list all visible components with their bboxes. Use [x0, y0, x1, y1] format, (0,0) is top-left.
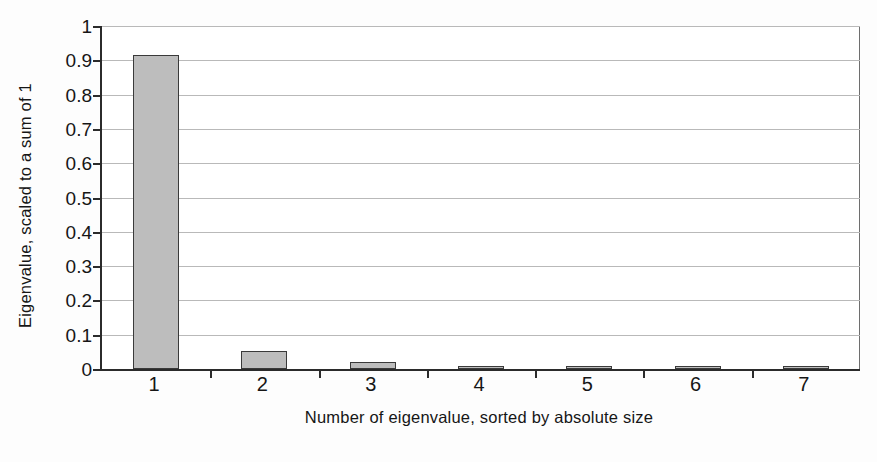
plot-area	[100, 26, 860, 371]
x-axis-tick-labels: 1234567	[100, 374, 858, 402]
x-axis-title: Number of eigenvalue, sorted by absolute…	[100, 408, 858, 427]
y-tickmark	[93, 300, 102, 302]
gridline	[102, 266, 860, 267]
bar	[783, 366, 829, 369]
y-tick-label: 0.9	[40, 51, 92, 70]
y-tickmark	[93, 198, 102, 200]
gridline	[102, 60, 860, 61]
bar	[675, 366, 721, 369]
y-tick-label: 0.4	[40, 222, 92, 241]
gridline	[102, 129, 860, 130]
y-tick-label: 0	[40, 360, 92, 379]
x-tick-label: 2	[242, 374, 282, 394]
gridline	[102, 163, 860, 164]
y-tickmark	[93, 129, 102, 131]
y-tick-label: 0.3	[40, 257, 92, 276]
x-tick-label: 5	[567, 374, 607, 394]
bar	[458, 366, 504, 369]
bar	[133, 55, 179, 369]
y-tickmark	[93, 60, 102, 62]
y-tickmark	[93, 335, 102, 337]
y-axis-title: Eigenvalue, scaled to a sum of 1	[16, 31, 35, 381]
gridline	[102, 198, 860, 199]
y-tickmark	[93, 26, 102, 28]
y-tick-label: 0.7	[40, 119, 92, 138]
y-tickmark	[93, 232, 102, 234]
y-tick-label: 0.8	[40, 85, 92, 104]
gridline	[102, 232, 860, 233]
y-tickmark	[93, 369, 102, 371]
x-tick-label: 7	[784, 374, 824, 394]
y-tickmark	[93, 266, 102, 268]
x-tick-label: 6	[676, 374, 716, 394]
x-tick-label: 4	[459, 374, 499, 394]
y-tick-label: 0.2	[40, 291, 92, 310]
gridline	[102, 26, 860, 27]
y-tick-label: 0.1	[40, 325, 92, 344]
gridline	[102, 300, 860, 301]
bar	[566, 366, 612, 369]
gridline	[102, 335, 860, 336]
eigenvalue-bar-chart: Eigenvalue, scaled to a sum of 1 00.10.2…	[0, 0, 877, 462]
bar	[241, 351, 287, 369]
y-tickmark	[93, 163, 102, 165]
gridline	[102, 95, 860, 96]
y-tickmark	[93, 95, 102, 97]
x-tick-label: 1	[134, 374, 174, 394]
y-axis-tick-labels: 00.10.20.30.40.50.60.70.80.91	[40, 26, 92, 369]
x-tick-label: 3	[351, 374, 391, 394]
y-tick-label: 1	[40, 17, 92, 36]
y-tick-label: 0.6	[40, 154, 92, 173]
y-tick-label: 0.5	[40, 188, 92, 207]
bar	[350, 362, 396, 369]
